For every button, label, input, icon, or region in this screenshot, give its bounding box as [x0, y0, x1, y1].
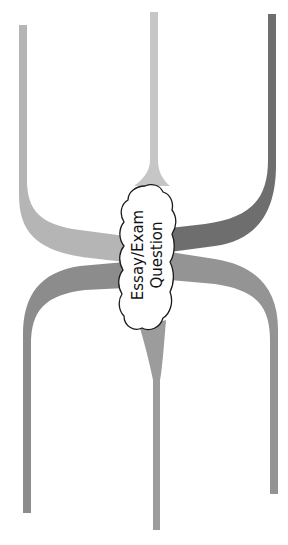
label-line-1: Essay/Exam [129, 185, 148, 325]
branch-top-right [170, 14, 276, 252]
branch-bottom-middle [140, 320, 166, 530]
label-line-2: Question [148, 185, 167, 325]
branch-bottom-left [23, 262, 125, 513]
branch-top-middle [134, 12, 170, 186]
branch-top-left [19, 25, 125, 262]
branch-bottom-right [170, 252, 278, 494]
central-question-label: Essay/Exam Question [129, 185, 167, 325]
